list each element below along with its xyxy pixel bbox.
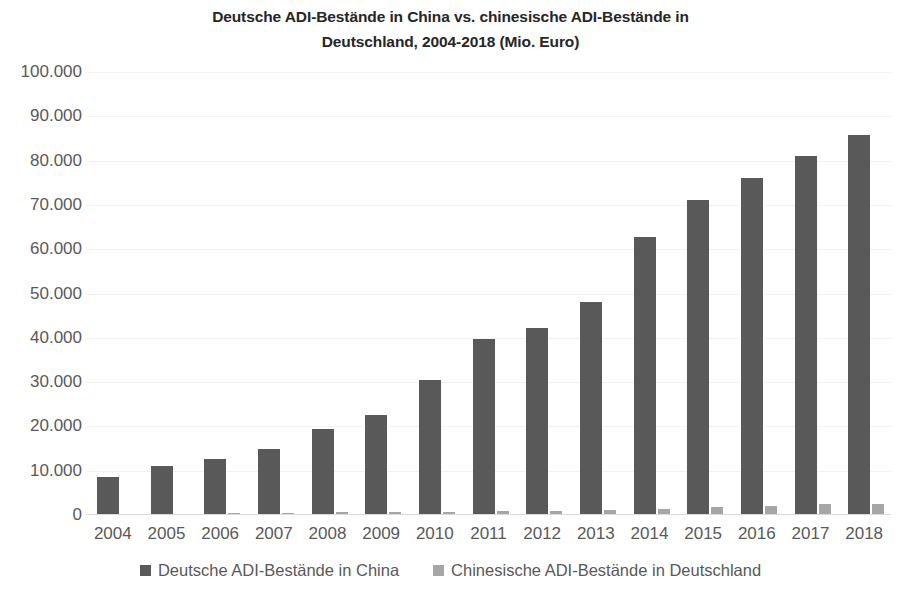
x-axis-tick-label-2018: 2018 xyxy=(837,524,891,544)
y-axis-tick-label: 30.000 xyxy=(2,373,82,390)
legend-item-1[interactable]: Deutsche ADI-Bestände in China xyxy=(140,562,399,579)
y-axis-tick-label: 20.000 xyxy=(2,417,82,434)
y-axis-tick-label: 40.000 xyxy=(2,329,82,346)
x-axis: 2004200520062007200820092010201120122013… xyxy=(86,524,891,550)
x-axis-tick-label-2015: 2015 xyxy=(676,524,730,544)
legend-label: Chinesische ADI-Bestände in Deutschland xyxy=(451,562,761,579)
chart-title-line-1: Deutsche ADI-Bestände in China vs. chine… xyxy=(0,4,901,29)
y-axis-tick-label: 60.000 xyxy=(2,240,82,257)
bar-deutsche-adi-2015 xyxy=(687,200,709,515)
gridline xyxy=(86,72,891,73)
gridline xyxy=(86,249,891,250)
gridline xyxy=(86,205,891,206)
bar-deutsche-adi-2004 xyxy=(97,477,119,515)
chart-title-line-2: Deutschland, 2004-2018 (Mio. Euro) xyxy=(0,29,901,54)
x-axis-tick-label-2009: 2009 xyxy=(354,524,408,544)
y-axis-tick-label: 80.000 xyxy=(2,152,82,169)
y-axis-tick-label: 0 xyxy=(2,506,82,523)
x-axis-tick-label-2016: 2016 xyxy=(730,524,784,544)
legend-swatch-icon xyxy=(140,565,151,576)
x-axis-baseline xyxy=(86,514,891,515)
x-axis-tick-label-2010: 2010 xyxy=(408,524,462,544)
bar-chart: Deutsche ADI-Bestände in China vs. chine… xyxy=(0,0,901,589)
bar-deutsche-adi-2009 xyxy=(365,415,387,515)
x-axis-tick-label-2007: 2007 xyxy=(247,524,301,544)
bar-deutsche-adi-2006 xyxy=(204,459,226,515)
legend-swatch-icon xyxy=(433,565,444,576)
legend-label: Deutsche ADI-Bestände in China xyxy=(158,562,399,579)
y-axis-tick-label: 70.000 xyxy=(2,196,82,213)
x-axis-tick-label-2013: 2013 xyxy=(569,524,623,544)
gridline xyxy=(86,116,891,117)
x-axis-tick-label-2014: 2014 xyxy=(623,524,677,544)
bar-deutsche-adi-2013 xyxy=(580,302,602,515)
legend-item-2[interactable]: Chinesische ADI-Bestände in Deutschland xyxy=(433,562,761,579)
bar-deutsche-adi-2016 xyxy=(741,178,763,515)
bar-deutsche-adi-2008 xyxy=(312,429,334,515)
chart-title: Deutsche ADI-Bestände in China vs. chine… xyxy=(0,4,901,54)
x-axis-tick-label-2004: 2004 xyxy=(86,524,140,544)
plot-area xyxy=(86,72,891,515)
y-axis-tick-label: 90.000 xyxy=(2,107,82,124)
bar-deutsche-adi-2012 xyxy=(526,328,548,515)
bar-deutsche-adi-2010 xyxy=(419,380,441,515)
x-axis-tick-label-2017: 2017 xyxy=(784,524,838,544)
y-axis: 100.00090.00080.00070.00060.00050.00040.… xyxy=(0,0,82,589)
x-axis-tick-label-2012: 2012 xyxy=(515,524,569,544)
bar-deutsche-adi-2011 xyxy=(473,339,495,515)
y-axis-tick-label: 100.000 xyxy=(2,63,82,80)
bar-deutsche-adi-2018 xyxy=(848,135,870,515)
gridline xyxy=(86,161,891,162)
gridline xyxy=(86,294,891,295)
bar-deutsche-adi-2007 xyxy=(258,449,280,515)
bar-deutsche-adi-2017 xyxy=(795,156,817,515)
x-axis-tick-label-2011: 2011 xyxy=(462,524,516,544)
x-axis-tick-label-2005: 2005 xyxy=(140,524,194,544)
bar-deutsche-adi-2014 xyxy=(634,237,656,515)
chart-legend: Deutsche ADI-Bestände in ChinaChinesisch… xyxy=(0,562,901,579)
bar-deutsche-adi-2005 xyxy=(151,466,173,515)
y-axis-tick-label: 50.000 xyxy=(2,285,82,302)
x-axis-tick-label-2006: 2006 xyxy=(193,524,247,544)
x-axis-tick-label-2008: 2008 xyxy=(301,524,355,544)
y-axis-tick-label: 10.000 xyxy=(2,462,82,479)
